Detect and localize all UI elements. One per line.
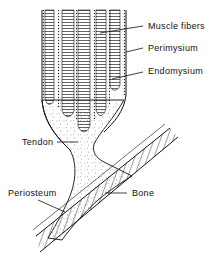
- label-endomysium: Endomysium: [148, 66, 203, 76]
- leader-periosteum: [38, 200, 65, 212]
- muscle-fiber-1: [45, 10, 54, 104]
- leader-muscle-fibers: [100, 26, 143, 33]
- label-perimysium: Perimysium: [148, 43, 198, 53]
- label-muscle-fibers: Muscle fibers: [148, 21, 205, 31]
- muscle-fiber-4: [96, 10, 106, 116]
- muscle-tendon-bone-diagram: [0, 0, 214, 263]
- label-bone: Bone: [132, 188, 154, 198]
- label-periosteum: Periosteum: [8, 188, 57, 198]
- muscle-fiber-3: [78, 10, 90, 132]
- muscle-fiber-2: [62, 10, 74, 117]
- label-tendon: Tendon: [22, 137, 53, 147]
- leader-perimysium: [126, 48, 143, 52]
